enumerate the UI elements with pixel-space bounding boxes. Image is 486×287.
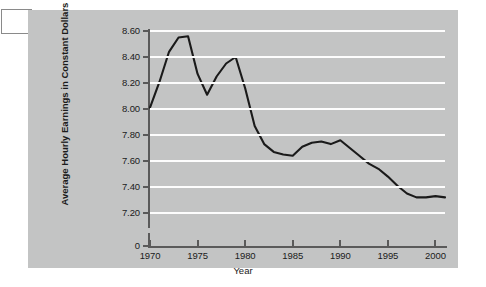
gridline-8.20: [150, 82, 445, 84]
y-label-7.80: 7.80: [122, 129, 140, 140]
gridline-7.60: [150, 160, 445, 162]
x-tick-1975: [197, 240, 199, 247]
gridline-7.80: [150, 134, 445, 136]
x-tick-1995: [387, 240, 389, 247]
gridline-8.00: [150, 108, 445, 110]
y-label-7.20: 7.20: [122, 207, 140, 218]
gridline-7.20: [150, 212, 445, 214]
x-label-1980: 1980: [235, 250, 256, 261]
x-axis-title: Year: [28, 265, 458, 276]
x-tick-1970: [149, 240, 151, 247]
y-tick-7.40: [143, 186, 149, 188]
y-label-7.40: 7.40: [122, 181, 140, 192]
y-label-8.00: 8.00: [122, 103, 140, 114]
y-tick-zero: [143, 245, 149, 247]
x-tick-1980: [244, 240, 246, 247]
gridline-8.40: [150, 56, 445, 58]
y-axis-tick-labels: 8.608.408.208.007.807.607.407.200: [28, 10, 140, 268]
x-label-1985: 1985: [282, 250, 303, 261]
y-label-8.20: 8.20: [122, 77, 140, 88]
x-label-1990: 1990: [330, 250, 351, 261]
earnings-line-series: [150, 31, 445, 226]
y-tick-7.20: [143, 212, 149, 214]
chart-panel: 8.608.408.208.007.807.607.407.200 Averag…: [28, 10, 458, 268]
plot-area: [150, 31, 445, 226]
y-tick-7.60: [143, 160, 149, 162]
y-tick-8.00: [143, 108, 149, 110]
y-axis-title: Average Hourly Earnings in Constant Doll…: [59, 36, 70, 206]
x-label-2000: 2000: [425, 250, 446, 261]
gridline-7.40: [150, 186, 445, 188]
x-label-1975: 1975: [187, 250, 208, 261]
gridline-8.60: [150, 30, 445, 32]
y-tick-8.20: [143, 82, 149, 84]
x-tick-1990: [339, 240, 341, 247]
x-axis-line: [148, 246, 447, 248]
y-label-8.60: 8.60: [122, 25, 140, 36]
y-label-7.60: 7.60: [122, 155, 140, 166]
x-tick-2000: [434, 240, 436, 247]
x-label-1995: 1995: [378, 250, 399, 261]
x-tick-1985: [292, 240, 294, 247]
y-tick-7.80: [143, 134, 149, 136]
y-tick-8.40: [143, 56, 149, 58]
y-tick-8.60: [143, 30, 149, 32]
x-label-1970: 1970: [140, 250, 161, 261]
y-label-8.40: 8.40: [122, 51, 140, 62]
